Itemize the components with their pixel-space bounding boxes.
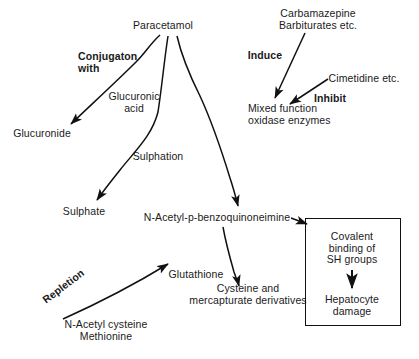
node-mixed-function-oxidase-enzymes: Mixed function oxidase enzymes	[248, 103, 331, 126]
node-paracetamol: Paracetamol	[133, 20, 193, 32]
node-n-acetyl-cysteine-methionine: N-Acetyl cysteine Methionine	[65, 319, 148, 342]
diagram-canvas: Paracetamol Glucuronide Sulphate Mixed f…	[0, 0, 419, 359]
arrow-napqi-to-cysteine	[223, 227, 239, 286]
node-cimetidine: Cimetidine etc.	[329, 73, 400, 85]
node-sulphate: Sulphate	[63, 206, 105, 218]
edge-label-glucuronic-acid: Glucuronic acid	[108, 91, 159, 114]
node-glucuronide: Glucuronide	[13, 128, 71, 140]
node-n-acetyl-p-benzoquinoneimine: N-Acetyl-p-benzoquinoneimine	[144, 212, 290, 224]
edge-label-glutathione: Glutathione	[169, 269, 224, 281]
edge-label-sulphation: Sulphation	[133, 151, 184, 163]
edge-label-induce: Induce	[248, 50, 282, 62]
edge-label-conjugation: Conjugaton with	[78, 51, 137, 74]
edge-label-inhibit: Inhibit	[314, 93, 346, 105]
node-covalent-binding-sh-groups: Covalent binding of SH groups	[327, 231, 378, 266]
arrow-paracetamol-to-napqi	[177, 36, 238, 206]
arrow-carbamazepine-to-mfo	[275, 33, 305, 98]
node-carbamazepine-barbiturates: Carbamazepine Barbiturates etc.	[279, 8, 357, 31]
node-cysteine-mercapturate-derivatives: Cysteine and mercapturate derivatives	[189, 283, 306, 306]
node-hepatocyte-damage: Hepatocyte damage	[325, 294, 379, 317]
